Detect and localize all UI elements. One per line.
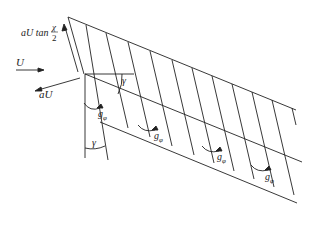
- label-au: aU: [39, 88, 54, 100]
- label-two: 2: [52, 33, 57, 43]
- svg-text:gφ: gφ: [98, 108, 107, 122]
- label-gamma-top: γ: [122, 75, 127, 86]
- sheet-bottom-edge: [100, 122, 297, 203]
- svg-text:gφ: gφ: [217, 151, 226, 165]
- sheet-top-edge: [68, 17, 296, 110]
- label-u: U: [16, 56, 25, 68]
- rotation-icons: [84, 103, 271, 171]
- svg-text:gφ: gφ: [154, 130, 163, 144]
- u-arrowhead-icon: [38, 68, 44, 72]
- svg-text:gφ: gφ: [265, 171, 274, 185]
- wake-diagram: U aU aU tan χ 2 γ γ gφ gφ gφ gφ: [0, 0, 315, 227]
- tan-arrow: [65, 27, 78, 72]
- sheet-middle-edge: [85, 74, 302, 162]
- label-tan: aU tan: [21, 27, 49, 38]
- label-chi: χ: [51, 22, 57, 32]
- label-gamma-bottom: γ: [92, 137, 97, 148]
- tan-arrowhead-icon: [62, 24, 67, 31]
